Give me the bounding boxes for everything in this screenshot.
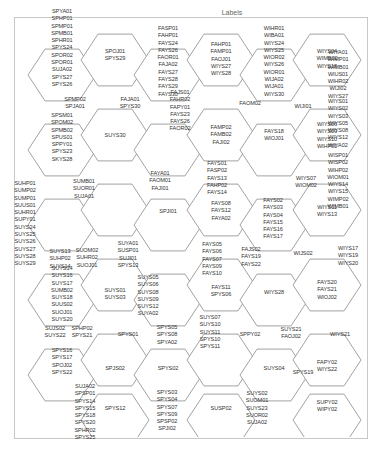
- label-line: FAOJ01: [211, 56, 232, 63]
- label-line: SPYS04: [157, 396, 178, 403]
- label-line: SUYS09: [138, 296, 159, 303]
- hex-label: SUOM02SUHR02SUOJ01: [76, 247, 98, 269]
- label-line: WIMP01: [328, 56, 349, 63]
- hex-label: FAHP01FAMP01FAOJ01WIYS27WIYS28: [211, 41, 232, 77]
- label-line: WIJA01: [264, 83, 285, 90]
- label-line: SPYS16: [52, 347, 73, 354]
- hex-label: WIJS02: [294, 250, 313, 257]
- label-line: FAYS14: [207, 189, 227, 196]
- label-line: WIYS14: [327, 181, 348, 188]
- label-line: SPYS02: [158, 365, 179, 372]
- label-line: FAJA01: [120, 96, 141, 103]
- label-line: SUYS03: [105, 294, 126, 301]
- hex-label: SPSM01SPOM02SPMB02SPUS01SPPY01SPYS23SKYS…: [51, 112, 73, 163]
- label-line: WIYS22: [317, 366, 337, 373]
- label-line: SPHP02: [72, 325, 93, 332]
- label-line: SUMB02: [51, 287, 73, 294]
- label-line: FAYA02: [211, 215, 231, 222]
- label-line: FAPY01: [170, 104, 191, 111]
- label-line: SPHR02: [74, 427, 95, 434]
- hex-label: FAYS08FAYS12FAYA02: [211, 200, 231, 222]
- label-line: SPYS15: [74, 405, 95, 412]
- hex-label: SUYS14SUYS16SUYS17SUMB02SUYS18SUUS02SUOJ…: [51, 265, 73, 323]
- label-line: SPJI02: [157, 425, 178, 432]
- hex-label: SUYS01SUYS03: [105, 287, 126, 302]
- label-line: FAPY02: [317, 359, 337, 366]
- hex-label: SPYS03SPYS04SPYS07SPYS09SPSP02SPJI02: [157, 389, 178, 433]
- label-line: WIYS25: [264, 47, 285, 54]
- label-line: SUYS24: [14, 224, 36, 231]
- label-line: WIOM01: [327, 174, 348, 181]
- label-line: WIHP02: [327, 167, 348, 174]
- label-line: SPMB02: [51, 127, 73, 134]
- label-line: SUMP01: [14, 195, 36, 202]
- label-line: WIJS02: [294, 250, 313, 257]
- map-title: Labels: [212, 9, 252, 16]
- label-line: SPJI01: [159, 208, 176, 215]
- hex-label: SUHP01SUMP02SUMP01SUUS01SUHR01SUPY01SUYS…: [14, 180, 36, 268]
- label-line: WIYS28: [264, 289, 284, 296]
- hex-label: SUSP02: [211, 405, 232, 412]
- label-line: WIOR01: [264, 69, 285, 76]
- label-line: SPHP01: [51, 15, 72, 22]
- label-line: WIYS03: [328, 113, 348, 120]
- label-line: FAYS07: [202, 256, 222, 263]
- label-line: FAYS06: [202, 248, 222, 255]
- label-line: SUYS18: [51, 294, 73, 301]
- label-line: SUSP02: [211, 405, 232, 412]
- label-line: SUOR02: [246, 412, 268, 419]
- label-line: SUUS01: [14, 202, 36, 209]
- label-line: SUYS27: [14, 246, 36, 253]
- hex-label: SPYS19: [293, 369, 314, 376]
- hex-label: SPOJ01SPYS29: [105, 48, 126, 63]
- label-line: SUHR01: [14, 209, 36, 216]
- hex-label: SUYS02SUOM01SUYS23SUOR02SUJA02: [246, 390, 268, 426]
- label-line: SUYS26: [14, 238, 36, 245]
- label-line: FAHP01: [211, 41, 232, 48]
- label-line: SUYS21: [281, 326, 302, 333]
- label-line: SUHR02: [76, 254, 98, 261]
- hex-label: SPHP02SPYS21: [72, 325, 93, 340]
- label-line: FAOM01: [149, 177, 170, 184]
- label-line: FAYS26: [158, 47, 179, 54]
- label-line: FAYS17: [263, 233, 283, 240]
- label-line: WIOM02: [295, 182, 316, 189]
- label-line: WIYS12: [328, 134, 348, 141]
- hex-label: WIYS28: [264, 289, 284, 296]
- label-line: SUYS05: [138, 274, 159, 281]
- label-line: WIYA02: [328, 142, 348, 149]
- label-line: SUYS22: [45, 332, 66, 339]
- hex-label: SUYS07SUYS10SUYS11SPYS10SPYS11: [200, 314, 221, 350]
- label-line: FAYS10: [202, 270, 222, 277]
- hex-label: FAOM02: [239, 100, 260, 107]
- label-line: FAYS21: [317, 286, 337, 293]
- label-line: FAHR02: [170, 96, 191, 103]
- label-line: FAYS20: [317, 279, 337, 286]
- label-line: SUYS29: [14, 260, 36, 267]
- hex-label: SPJI01: [159, 208, 176, 215]
- label-line: WIMB01: [327, 203, 348, 210]
- label-line: FAYS04: [263, 212, 283, 219]
- label-line: SPYS30: [120, 103, 141, 110]
- label-line: SPYS23: [51, 148, 73, 155]
- hex-label: FAMP02FAMB02FAJI02: [211, 124, 232, 146]
- label-line: WIYS05: [328, 120, 348, 127]
- label-line: SPYS09: [157, 411, 178, 418]
- label-line: SUYS01: [105, 287, 126, 294]
- label-line: SUJA01: [73, 193, 95, 200]
- label-line: WIYS17: [338, 245, 358, 252]
- label-line: SPPY01: [51, 141, 73, 148]
- hex-label: SUYS05SUYS06SUYS08SUYS09SUYS12SUYA02: [138, 274, 159, 318]
- label-line: WIYS21: [330, 331, 350, 338]
- label-line: WISP02: [327, 159, 348, 166]
- label-line: SUYS30: [105, 132, 126, 139]
- label-line: FAMB02: [211, 131, 232, 138]
- label-line: FAYS13: [207, 175, 227, 182]
- label-line: SPUS01: [51, 134, 73, 141]
- label-line: SPSP01: [74, 390, 95, 397]
- label-line: FAYS15: [263, 219, 283, 226]
- label-line: WIBA01: [264, 32, 285, 39]
- hex-label: WIYS01WIYS02WIYS03WIYS05WIYS08WIYS12WIYA…: [328, 98, 348, 149]
- label-line: FAOR01: [158, 54, 179, 61]
- label-line: FAYS11: [211, 284, 232, 291]
